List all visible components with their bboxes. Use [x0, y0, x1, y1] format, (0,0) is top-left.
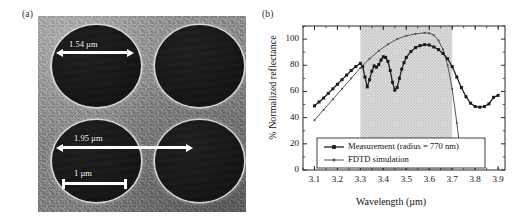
- x-tick-label: 3.2: [325, 174, 349, 184]
- y-tick-label: 0: [277, 164, 299, 174]
- sem-micrograph: 1.54 µm 1.95 µm 1 µm: [38, 16, 246, 212]
- y-tick-label: 80: [277, 59, 299, 69]
- panel-a-label: (a): [22, 9, 33, 19]
- scale-bar-icon: [62, 182, 127, 185]
- y-tick-label: 20: [277, 138, 299, 148]
- sem-hole-top-left: [52, 25, 141, 107]
- x-tick-label: 3.4: [371, 174, 395, 184]
- legend-entry-label: FDTD simulation: [348, 154, 409, 164]
- x-tick-label: 3.5: [394, 174, 418, 184]
- sem-hole-bottom-right: [155, 120, 244, 202]
- x-tick-label: 3.3: [348, 174, 372, 184]
- y-axis-title: % Normalized reflectance: [267, 17, 278, 159]
- scale-bar-label: 1 µm: [74, 168, 92, 178]
- hole-diameter-label: 1.54 µm: [69, 39, 98, 49]
- y-tick-label: 100: [277, 33, 299, 43]
- hole-pitch-arrow-icon: [62, 146, 187, 149]
- legend-entry-label: Measurement (radius = 770 nm): [348, 141, 459, 151]
- x-axis-title: Wavelength (µm): [306, 196, 476, 207]
- reflectance-chart: % Normalized reflectance Wavelength (µm)…: [258, 10, 516, 216]
- y-tick-label: 60: [277, 85, 299, 95]
- hole-pitch-label: 1.95 µm: [74, 133, 103, 143]
- x-tick-label: 3.1: [302, 174, 326, 184]
- figure-container: (a) 1.54 µm 1.95 µm 1 µm (b): [0, 0, 521, 220]
- x-tick-label: 3.8: [463, 174, 487, 184]
- hole-diameter-arrow-icon: [62, 51, 128, 54]
- x-tick-label: 3.7: [440, 174, 464, 184]
- x-tick-label: 3.9: [486, 174, 510, 184]
- sem-hole-top-right: [155, 25, 244, 107]
- y-tick-label: 40: [277, 112, 299, 122]
- x-tick-label: 3.6: [417, 174, 441, 184]
